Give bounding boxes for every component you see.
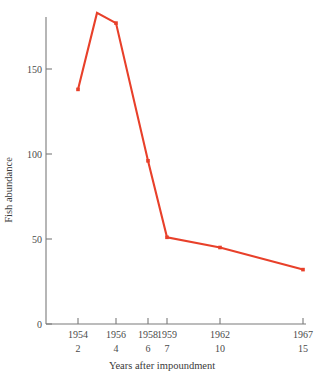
data-series-line (78, 13, 303, 270)
x-axis-ticks (78, 318, 303, 324)
x-tick-label-years-after: 7 (165, 343, 170, 354)
x-tick-label-year: 1956 (106, 329, 126, 340)
x-tick-label-years-after: 15 (298, 343, 308, 354)
y-tick-label: 150 (27, 64, 42, 75)
y-axis-title: Fish abundance (3, 157, 14, 223)
y-axis-ticks (46, 69, 52, 324)
x-tick-label-year: 1967 (293, 329, 313, 340)
data-point-marker (165, 236, 169, 240)
data-point-marker (76, 88, 80, 92)
data-point-marker (301, 268, 305, 272)
data-point-marker (218, 246, 222, 250)
data-point-marker (114, 21, 118, 25)
data-point-marker (146, 159, 150, 163)
y-tick-label: 0 (37, 319, 42, 330)
x-axis-title: Years after impoundment (0, 360, 324, 371)
x-tick-label-years-after: 2 (76, 343, 81, 354)
plot-area (0, 0, 324, 381)
fish-abundance-line-chart: 050100150 195419561958195919621967 24671… (0, 0, 324, 381)
x-tick-label-year: 1959 (157, 329, 177, 340)
y-tick-label: 50 (32, 234, 42, 245)
x-tick-label-year: 1958 (138, 329, 158, 340)
x-tick-label-year: 1954 (68, 329, 88, 340)
data-point-markers (76, 21, 305, 271)
x-tick-label-years-after: 6 (146, 343, 151, 354)
x-tick-label-year: 1962 (210, 329, 230, 340)
x-tick-label-years-after: 10 (215, 343, 225, 354)
x-tick-label-years-after: 4 (114, 343, 119, 354)
y-tick-label: 100 (27, 149, 42, 160)
